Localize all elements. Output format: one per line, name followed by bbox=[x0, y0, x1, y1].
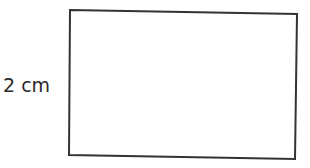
rectangle-diagram: 2 cm bbox=[0, 0, 310, 168]
height-label: 2 cm bbox=[3, 74, 50, 96]
rectangle-shape bbox=[69, 10, 297, 159]
diagram-canvas: 2 cm bbox=[0, 0, 310, 168]
